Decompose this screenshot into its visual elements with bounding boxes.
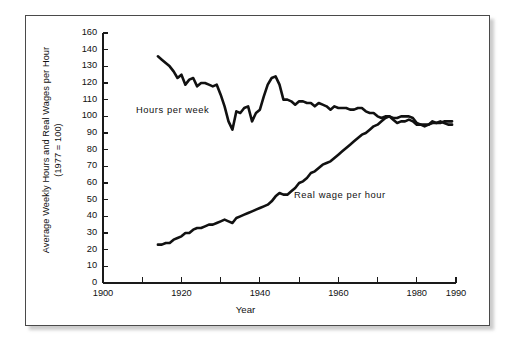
series-line-real-wage-per-hour — [158, 116, 452, 244]
plot-canvas — [0, 0, 515, 345]
series-line-hours-per-week — [158, 56, 452, 129]
figure-root: Average Weekly Hours and Real Wages per … — [0, 0, 515, 345]
data-lines-group — [158, 56, 452, 244]
axes-group — [103, 33, 456, 283]
